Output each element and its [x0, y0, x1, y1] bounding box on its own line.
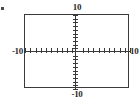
plot-frame-border [24, 14, 129, 88]
x-axis-min-label: -10 [0, 46, 23, 56]
y-axis-min-label: -10 [60, 89, 94, 99]
x-axis-line [25, 51, 130, 52]
corner-artifact-mark [1, 7, 4, 10]
graph-viewing-window: 10 -10 -10 10 [0, 0, 140, 101]
y-axis-line [75, 15, 76, 89]
x-axis-max-label: 10 [130, 46, 140, 56]
y-axis-max-label: 10 [60, 2, 94, 12]
x-axis-tick-marks [25, 15, 130, 89]
y-axis-tick-marks [25, 15, 130, 89]
